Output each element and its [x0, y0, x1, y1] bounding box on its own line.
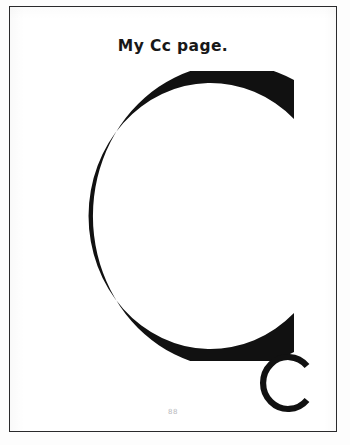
page-title: My Cc page. [10, 36, 336, 55]
small-lowercase-letter-c [250, 353, 312, 413]
worksheet-page: My Cc page. 88 [0, 0, 350, 445]
uppercase-c-glyph [89, 71, 294, 361]
page-number: 88 [10, 408, 336, 416]
page-border-frame: My Cc page. 88 [9, 6, 337, 432]
large-uppercase-letter-c [50, 71, 300, 361]
lowercase-c-glyph [263, 357, 307, 409]
